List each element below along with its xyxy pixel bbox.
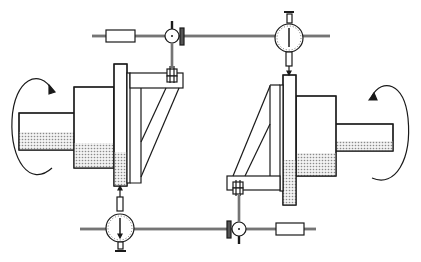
left-shaft bbox=[19, 113, 75, 150]
alignment-diagram: Shaft alignment with rim-and-face dial i… bbox=[0, 0, 421, 262]
right-hub bbox=[296, 96, 336, 176]
right-bracket bbox=[227, 85, 283, 196]
top-dial bbox=[275, 12, 303, 75]
bottom-dial bbox=[106, 186, 134, 251]
right-flange bbox=[283, 75, 296, 205]
right-shaft bbox=[335, 124, 393, 151]
left-bracket bbox=[127, 66, 183, 183]
left-hub bbox=[74, 87, 114, 168]
left-flange bbox=[114, 64, 127, 186]
